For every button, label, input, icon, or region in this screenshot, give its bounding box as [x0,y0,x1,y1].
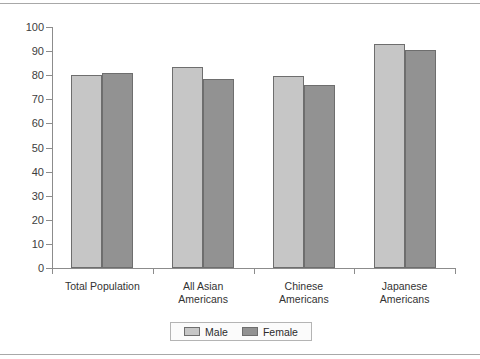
x-axis-tick [455,268,456,274]
y-axis-tick-label: 70 [0,99,44,100]
y-axis-tick-label-text: 100 [26,21,44,33]
legend-swatch-male [184,327,200,336]
y-axis-tick-label-text: 80 [32,69,44,81]
y-axis-tick-label-text: 20 [32,214,44,226]
bar-male-chinese-americans [273,76,304,268]
bar-male-japanese-americans [374,44,405,268]
chart-page: 0102030405060708090100 Total PopulationA… [0,0,480,359]
x-axis-category-japanese-americans: JapaneseAmericans [340,280,470,306]
y-axis-tick-label: 10 [0,244,44,245]
y-axis-tick-label: 0 [0,268,44,269]
y-axis-tick-label: 40 [0,172,44,173]
x-axis-tick [52,268,53,274]
legend-label-female: Female [263,326,298,338]
y-axis-tick-label-text: 0 [38,262,44,274]
bar-male-all-asian-americans [172,67,203,268]
bar-female-total-population [102,73,133,268]
y-axis-tick-label-text: 70 [32,93,44,105]
plot-area [52,27,455,268]
y-axis-tick-label-text: 60 [32,117,44,129]
x-axis-tick [254,268,255,274]
y-axis-tick-label: 90 [0,51,44,52]
x-axis-tick [354,268,355,274]
x-axis-category-line: Americans [340,293,470,306]
x-axis-tick [153,268,154,274]
y-axis-tick-label-text: 90 [32,45,44,57]
y-axis-tick-label-text: 30 [32,190,44,202]
legend-label-male: Male [205,326,228,338]
y-axis-tick-label: 50 [0,148,44,149]
bar-female-chinese-americans [304,85,335,268]
page-bottom-rule [0,354,480,355]
y-axis-tick-label: 80 [0,75,44,76]
bar-male-total-population [71,75,102,268]
y-axis-tick-label: 20 [0,220,44,221]
bar-female-japanese-americans [405,50,436,268]
bar-female-all-asian-americans [203,79,234,268]
legend-entry-male[interactable]: Male [184,326,228,338]
y-axis-tick-label: 100 [0,27,44,28]
y-axis-tick-label: 30 [0,196,44,197]
y-axis-tick-label-text: 40 [32,166,44,178]
page-top-rule [0,3,480,4]
legend-swatch-female [242,327,258,336]
y-axis-tick-label-text: 10 [32,238,44,250]
y-axis-tick-label-text: 50 [32,142,44,154]
y-axis-tick-label: 60 [0,123,44,124]
chart-legend: MaleFemale [170,322,312,341]
x-axis-category-line: Japanese [340,280,470,293]
legend-entry-female[interactable]: Female [242,326,298,338]
